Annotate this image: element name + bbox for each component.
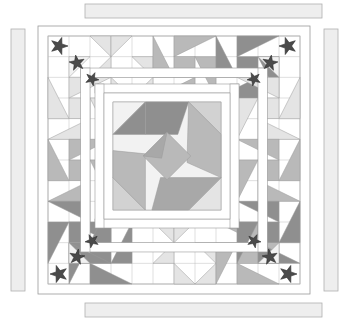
- sashing-right: [258, 68, 267, 252]
- inner-sashing-right: [230, 84, 239, 228]
- inner-sashing-bottom: [95, 219, 239, 228]
- sashing-top: [81, 68, 268, 77]
- border-strip-bottom-strip: [85, 303, 322, 317]
- border-strip-left-strip: [11, 29, 25, 291]
- quilt-canvas: [0, 0, 349, 322]
- sashing-left: [81, 68, 90, 252]
- border-strip-right-strip: [324, 29, 338, 291]
- inner-sashing-top: [95, 84, 239, 93]
- inner-sashing-left: [95, 84, 104, 228]
- quilt-diagram: [0, 0, 349, 322]
- sashing-bottom: [81, 243, 268, 252]
- border-right-blocks: [237, 77, 300, 263]
- pinwheel-medallion: [113, 102, 221, 210]
- border-strip-top-strip: [85, 4, 322, 18]
